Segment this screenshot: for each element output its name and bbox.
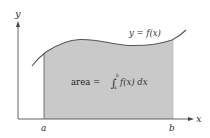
area-formula-prefix: area = [71,77,103,87]
y-axis-arrow-icon [16,21,20,27]
bound-b-label: b [169,123,175,133]
integrand: f(x) dx [119,77,148,87]
bound-a-label: a [41,123,46,133]
x-axis-label: x [196,113,202,124]
x-axis-arrow-icon [188,117,194,121]
shaded-area-region [44,39,173,119]
integral-upper-limit: b [116,73,119,78]
integral-lower-limit: a [114,85,117,90]
area-diagram: y x a b y = f(x) area = ∫ b a f(x) dx [0,0,210,138]
y-axis-label: y [14,8,21,19]
curve-label: y = f(x) [128,28,161,38]
